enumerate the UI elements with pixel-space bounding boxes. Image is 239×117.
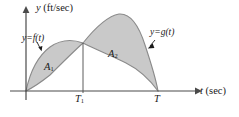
figure-canvas — [0, 0, 239, 117]
velocity-area-figure: y (ft/sec) t (sec) y=f(t) y=g(t) A1 A2 T… — [0, 0, 239, 117]
x-tick-t-letter: T — [154, 93, 160, 104]
y-axis-arrowhead — [23, 6, 30, 13]
y-axis-label: y (ft/sec) — [36, 3, 73, 14]
x-axis-label-unit: (sec) — [206, 85, 226, 96]
x-tick-label-t: T — [154, 94, 160, 105]
shaded-region-a2 — [83, 14, 158, 91]
f-label-arrowhead — [38, 46, 42, 51]
region-a1-label: A1 — [44, 62, 54, 73]
curve-g-label: y=g(t) — [150, 28, 174, 38]
region-a2-label: A2 — [108, 49, 118, 60]
region-a2-subscript: 2 — [114, 52, 117, 59]
x-tick-t1-subscript: 1 — [81, 97, 84, 104]
x-tick-label-t1: T1 — [75, 94, 84, 105]
curve-f-label: y=f(t) — [22, 34, 44, 44]
y-axis-label-unit: (ft/sec) — [43, 2, 73, 13]
region-a1-subscript: 1 — [50, 65, 53, 72]
x-axis-label: t (sec) — [200, 86, 226, 97]
